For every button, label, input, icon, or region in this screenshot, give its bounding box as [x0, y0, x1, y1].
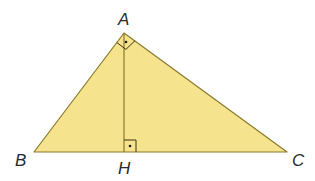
triangle-diagram: A B H C: [0, 0, 315, 181]
label-b: B: [15, 151, 26, 170]
label-h: H: [118, 159, 131, 178]
label-c: C: [292, 151, 305, 170]
triangle-abc: [34, 33, 287, 152]
label-a: A: [117, 10, 129, 29]
